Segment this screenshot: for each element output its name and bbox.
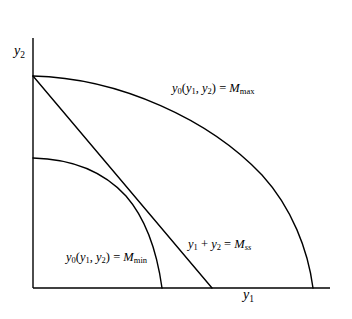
- ss-rhs-sub: ss: [245, 242, 252, 252]
- isoquant-figure: y2 y1 y0(y1, y2) = Mmax y0(y1, y2) = Mmi…: [0, 0, 352, 319]
- max-rhs-base: M: [229, 81, 239, 95]
- max-rhs-sub: max: [240, 86, 255, 96]
- ss-equals: =: [221, 237, 234, 251]
- x-axis-label: y1: [243, 288, 254, 304]
- min-rhs-base: M: [123, 250, 133, 264]
- plot-canvas: [0, 0, 352, 319]
- min-isoquant-label: y0(y1, y2) = Mmin: [66, 251, 147, 265]
- max-isoquant-label: y0(y1, y2) = Mmax: [172, 82, 254, 96]
- max-equals: =: [216, 81, 229, 95]
- y-axis-label-sub: 2: [20, 50, 25, 60]
- ss-plus: +: [198, 237, 211, 251]
- min-rhs-sub: min: [134, 255, 147, 265]
- curve-min-isoquant: [33, 158, 162, 288]
- ss-rhs-base: M: [234, 237, 244, 251]
- min-equals: =: [110, 250, 123, 264]
- x-axis-label-sub: 1: [249, 294, 254, 304]
- y-axis-label: y2: [14, 44, 25, 60]
- budget-line-label: y1 + y2 = Mss: [188, 238, 251, 252]
